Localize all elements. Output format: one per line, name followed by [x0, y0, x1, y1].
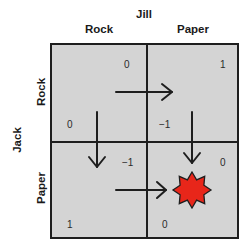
arrow-down-icon — [89, 112, 105, 167]
arrow-right-icon — [116, 84, 172, 100]
arrow-down-icon — [184, 112, 200, 163]
arrow-right-icon — [116, 182, 166, 198]
equilibrium-star-icon — [173, 172, 211, 208]
best-response-arrows — [0, 0, 252, 251]
